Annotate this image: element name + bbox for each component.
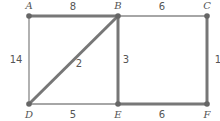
weight-label-D-E: 5	[70, 109, 76, 120]
weight-label-B-C: 6	[159, 1, 165, 12]
vertex-E	[115, 101, 121, 107]
edge-B-D	[29, 16, 118, 104]
vertex-F	[204, 101, 210, 107]
vertex-A	[26, 13, 32, 19]
weighted-graph-diagram: A B C D E F 8 6 14 2 3 1 5 6	[0, 0, 220, 121]
vertex-label-A: A	[24, 0, 32, 11]
weight-label-E-F: 6	[159, 109, 165, 120]
vertex-label-C: C	[203, 0, 211, 11]
weight-label-A-B: 8	[70, 1, 76, 12]
vertex-label-D: D	[24, 109, 33, 120]
weight-label-A-D: 14	[10, 54, 23, 65]
weight-label-B-D: 2	[76, 58, 82, 69]
vertex-B	[115, 13, 121, 19]
weight-label-B-E: 3	[123, 54, 129, 65]
weight-label-C-F: 1	[215, 54, 220, 65]
vertex-label-F: F	[203, 109, 212, 120]
vertex-label-B: B	[113, 0, 121, 11]
vertex-label-E: E	[113, 109, 122, 120]
vertex-D	[26, 101, 32, 107]
vertex-C	[204, 13, 210, 19]
